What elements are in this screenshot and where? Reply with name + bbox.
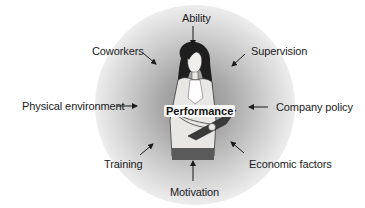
label-ability: Ability — [182, 12, 211, 24]
label-company-policy: Company policy — [276, 101, 353, 113]
label-supervision: Supervision — [251, 45, 307, 57]
label-motivation: Motivation — [170, 186, 219, 198]
arrow-economic-factors — [231, 142, 244, 153]
label-economic-factors: Economic factors — [249, 158, 332, 170]
arrow-supervision — [232, 54, 245, 66]
label-training: Training — [104, 158, 143, 170]
arrow-training — [140, 144, 153, 155]
label-coworkers: Coworkers — [92, 45, 144, 57]
center-label-performance: Performance — [164, 105, 235, 117]
label-physical-environment: Physical environment — [22, 100, 125, 112]
arrow-coworkers — [143, 53, 156, 64]
